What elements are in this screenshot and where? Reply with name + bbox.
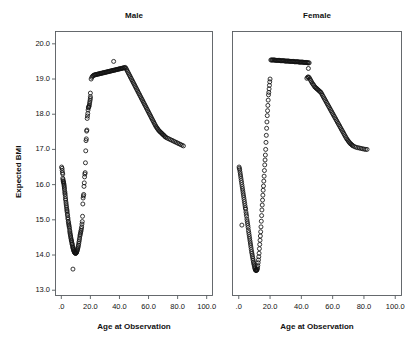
data-point-female-rising-column	[259, 230, 263, 234]
data-point-male-rising-column	[83, 161, 87, 165]
data-point-female-rising-column	[260, 208, 264, 212]
data-point-female-rising-column	[259, 219, 263, 223]
data-point-female-rising-column	[258, 238, 262, 242]
data-point-female-rising-column	[268, 77, 272, 81]
data-point-male-outlier-high	[112, 59, 116, 63]
data-point-female-rising-column	[265, 126, 269, 130]
data-point-female-rising-column	[266, 103, 270, 107]
data-point-female-rising-column	[262, 174, 266, 178]
data-point-female-rising-column	[265, 120, 269, 124]
data-point-female-rising-column	[262, 169, 266, 173]
data-point-female-rising-column	[261, 198, 265, 202]
data-point-female-rising-column	[264, 147, 268, 151]
data-point-female-rising-column	[261, 193, 265, 197]
data-point-female-rising-column	[262, 179, 266, 183]
figure-root: Male Female Expected BMI Age at Observat…	[0, 0, 420, 344]
data-point-male-rising-column	[80, 220, 84, 224]
data-point-male-outlier-low	[71, 267, 75, 271]
data-point-female-rising-column	[259, 225, 263, 229]
data-point-female-rising-column	[261, 184, 265, 188]
data-point-female-rising-column	[260, 214, 264, 218]
data-point-female-rising-column	[264, 140, 268, 144]
data-point-female-rising-column	[263, 158, 267, 162]
data-point-female-rising-column	[257, 247, 261, 251]
data-point-female-outlier-high	[306, 66, 310, 70]
data-point-female-rising-column	[266, 109, 270, 113]
data-point-female-rising-column	[261, 188, 265, 192]
data-point-female-rising-column	[258, 242, 262, 246]
data-point-male-rising-column	[84, 149, 88, 153]
data-point-female-rising-column	[263, 153, 267, 157]
data-point-female-rising-column	[265, 114, 269, 118]
data-point-male-rising-column	[81, 202, 85, 206]
data-point-female-rising-column	[266, 98, 270, 102]
data-point-female-rising-column	[258, 234, 262, 238]
panel-frame-male	[56, 32, 213, 296]
data-point-male-rising-column	[81, 214, 85, 218]
plot-canvas	[0, 0, 420, 344]
data-point-female-rising-column	[260, 203, 264, 207]
data-point-female-rising-column	[263, 163, 267, 167]
data-point-female-rising-column	[264, 133, 268, 137]
panel-frame-female	[233, 32, 402, 296]
data-point-female-outlier-mid	[240, 223, 244, 227]
